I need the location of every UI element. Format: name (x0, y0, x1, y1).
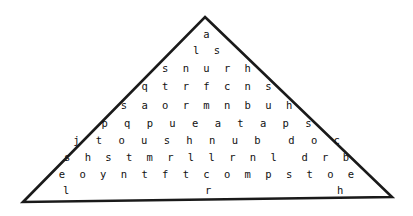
letter-row-4: q t r f c n s (0, 80, 413, 92)
letter-row-2: l s (0, 44, 413, 56)
letter-row-8: s h s t m r l l r n l d r b (0, 151, 413, 163)
letter-row-9: e o y n t f t c o m p s t o e (0, 168, 413, 180)
letter-row-6: p q p u e a t a p s (0, 117, 413, 129)
letter-cell: l (63, 184, 69, 196)
puzzle-figure: a l s s n u r h q t r f c n s s a o r m … (0, 0, 413, 216)
letter-row-3: s n u r h (0, 62, 413, 74)
letter-row-5: s a o r m n b u h (0, 99, 413, 111)
letter-row-7: j t o u s h n u b d o c (0, 134, 413, 146)
letter-row-1: a (0, 28, 413, 40)
letter-cell: r (205, 184, 211, 196)
letter-grid: a l s s n u r h q t r f c n s s a o r m … (0, 0, 413, 216)
letter-cell: h (337, 184, 343, 196)
